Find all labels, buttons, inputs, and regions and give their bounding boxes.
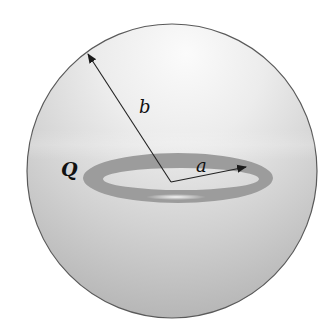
charge-label: Q (61, 158, 78, 180)
sphere-radius-label: b (139, 96, 151, 117)
ring-highlight (146, 194, 206, 200)
ring-radius-label: a (196, 155, 207, 176)
ring-in-sphere-diagram: Q b a (0, 0, 332, 334)
